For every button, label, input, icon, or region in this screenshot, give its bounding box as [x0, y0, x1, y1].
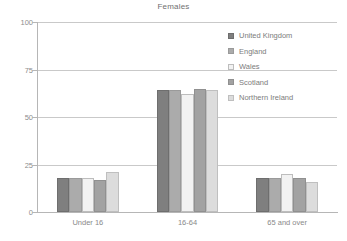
x-axis-line	[37, 212, 338, 213]
bar	[57, 178, 69, 212]
y-tick-mark-75	[32, 70, 37, 71]
bar	[194, 89, 206, 213]
bar	[169, 90, 181, 212]
y-tick-mark-0	[32, 212, 37, 213]
legend-label: United Kingdom	[239, 32, 292, 40]
bar	[157, 90, 169, 212]
legend-swatch-icon	[228, 64, 234, 70]
bar-group	[157, 22, 219, 212]
bar	[206, 90, 218, 212]
x-tick-label: 65 and over	[267, 218, 307, 227]
legend-swatch-icon	[228, 79, 234, 85]
legend-label: Wales	[239, 63, 260, 71]
chart-container: Females 0255075100 Under 1616-6465 and o…	[0, 0, 347, 241]
bar	[256, 178, 268, 212]
y-tick-mark-50	[32, 117, 37, 118]
legend-label: Northern Ireland	[239, 94, 293, 102]
x-tick-label: Under 16	[72, 218, 103, 227]
bar	[281, 174, 293, 212]
bar	[106, 172, 118, 212]
y-tick-mark-100	[32, 22, 37, 23]
bar	[82, 178, 94, 212]
legend-item[interactable]: Scotland	[228, 75, 340, 91]
bar	[269, 178, 281, 212]
bar-group	[57, 22, 119, 212]
legend-swatch-icon	[228, 48, 234, 54]
bar	[293, 178, 305, 212]
legend-label: Scotland	[239, 79, 268, 87]
legend: United KingdomEnglandWalesScotlandNorthe…	[228, 28, 340, 106]
x-axis-tick-labels: Under 1616-6465 and over	[38, 218, 337, 234]
legend-item[interactable]: Wales	[228, 59, 340, 75]
chart-title: Females	[0, 2, 347, 11]
bar	[69, 178, 81, 212]
legend-item[interactable]: Northern Ireland	[228, 90, 340, 106]
y-axis-tick-labels: 0255075100	[0, 22, 33, 212]
y-tick-mark-25	[32, 165, 37, 166]
legend-swatch-icon	[228, 33, 234, 39]
bar	[181, 94, 193, 212]
legend-item[interactable]: England	[228, 44, 340, 60]
x-tick-label: 16-64	[178, 218, 197, 227]
bar	[94, 180, 106, 212]
legend-label: England	[239, 48, 267, 56]
legend-item[interactable]: United Kingdom	[228, 28, 340, 44]
bar	[306, 182, 318, 212]
legend-swatch-icon	[228, 95, 234, 101]
